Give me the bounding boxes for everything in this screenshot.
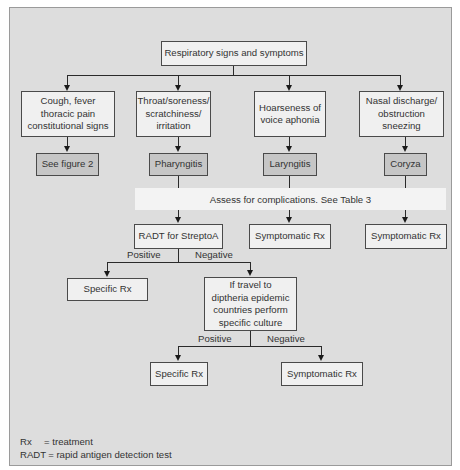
symptom-label: Hoarseness of voice aphonia [259,102,321,127]
arrow-down-icon [402,217,408,223]
legend-row: RADT = rapid antigen detection test [20,448,172,461]
diagnosis-label: Laryngitis [269,158,310,171]
symptom-label: Throat/soreness/ scratchiness/ irritatio… [138,95,210,133]
diagnosis-box-coryza: Coryza [384,153,427,176]
legend-value: = rapid antigen detection test [48,448,171,461]
connector [107,262,251,263]
root-label: Respiratory signs and symptoms [164,47,303,60]
diagnosis-box-pharyngitis: Pharyngitis [149,153,208,176]
radt-positive-label: Positive [127,249,161,260]
arrow-down-icon [175,146,181,152]
legend-value: = treatment [44,435,93,448]
symptomatic-rx-label: Symptomatic Rx [255,230,325,243]
symptom-box-cough: Cough, fever thoracic pain constitutiona… [21,91,115,137]
diagnosis-label: See figure 2 [42,158,94,171]
connector [250,331,251,346]
symptom-label: Nasal discharge/ obstruction sneezing [366,95,437,133]
connector [178,346,322,347]
legend-key: Rx [20,435,40,448]
symptom-box-nasal: Nasal discharge/ obstruction sneezing [359,91,444,137]
arrow-down-icon [104,271,110,277]
diagnosis-box-laryngitis: Laryngitis [263,153,317,176]
specific-rx-label: Specific Rx [84,283,132,296]
root-box: Respiratory signs and symptoms [161,41,307,66]
arrow-down-icon [64,146,70,152]
connector [178,249,179,262]
assess-complications-band: Assess for complications. See Table 3 [135,188,446,210]
symptomatic-rx-label: Symptomatic Rx [371,230,441,243]
specific-rx-label: Specific Rx [155,368,203,381]
symptom-box-hoarseness: Hoarseness of voice aphonia [254,91,326,137]
legend-key: RADT [20,448,46,461]
legend-row: Rx = treatment [20,435,172,448]
arrow-down-icon [175,355,181,361]
assess-label: Assess for complications. See Table 3 [210,194,371,205]
radt-streptoa-box: RADT for StreptoA [134,224,223,249]
diagnosis-box-see-figure: See figure 2 [36,153,99,176]
radt-label: RADT for StreptoA [139,230,219,243]
legend: Rx = treatment RADT = rapid antigen dete… [20,435,172,461]
connector [233,66,234,75]
specific-rx-box-culture: Specific Rx [150,362,208,386]
symptom-box-throat: Throat/soreness/ scratchiness/ irritatio… [136,91,211,137]
arrow-down-icon [175,217,181,223]
symptomatic-rx-box-coryza: Symptomatic Rx [365,224,447,249]
symptomatic-rx-label: Symptomatic Rx [287,368,357,381]
radt-negative-label: Negative [195,249,233,260]
arrow-down-icon [318,355,324,361]
arrow-down-icon [247,270,253,276]
symptomatic-rx-box-laryngitis: Symptomatic Rx [249,224,331,249]
arrow-down-icon [402,146,408,152]
culture-negative-label: Negative [267,333,305,344]
diphtheria-culture-box: If travel to diptheria epidemic countrie… [204,277,297,331]
connector [67,75,401,76]
connector [289,176,290,188]
connector [405,176,406,188]
culture-positive-label: Positive [198,333,232,344]
connector [178,176,179,188]
arrow-down-icon [286,146,292,152]
diphtheria-culture-label: If travel to diptheria epidemic countrie… [212,279,290,329]
diagnosis-label: Coryza [390,158,420,171]
symptomatic-rx-box-culture: Symptomatic Rx [281,362,363,386]
specific-rx-box-strep: Specific Rx [67,278,148,301]
symptom-label: Cough, fever thoracic pain constitutiona… [27,95,108,133]
diagnosis-label: Pharyngitis [155,158,202,171]
arrow-down-icon [286,217,292,223]
